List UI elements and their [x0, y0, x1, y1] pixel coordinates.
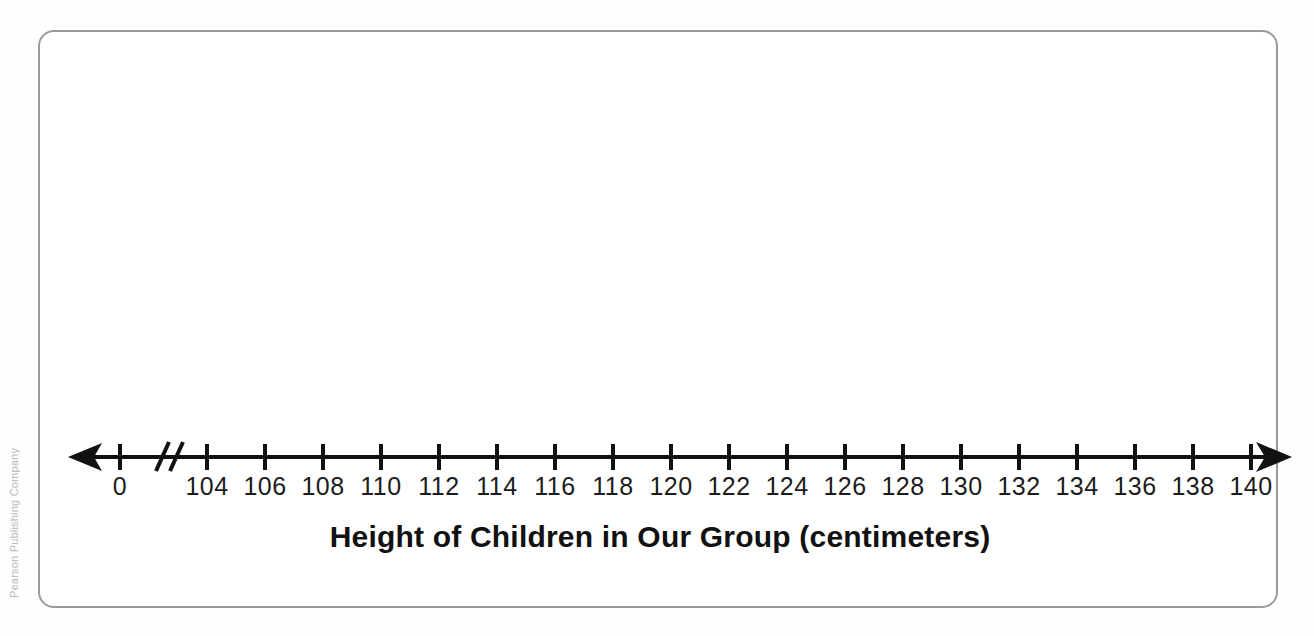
- tick-label-130: 130: [939, 472, 982, 501]
- tick-label-112: 112: [418, 472, 459, 501]
- tick-label-124: 124: [765, 472, 808, 501]
- tick-label-row: 0 104 106 108 110 112 114 116 118 120 12…: [60, 472, 1270, 512]
- tick-label-104: 104: [185, 472, 228, 501]
- number-line-figure: 0 104 106 108 110 112 114 116 118 120 12…: [40, 32, 1280, 610]
- tick-label-118: 118: [592, 472, 633, 501]
- tick-label-108: 108: [301, 472, 344, 501]
- tick-label-110: 110: [360, 472, 401, 501]
- tick-label-114: 114: [476, 472, 517, 501]
- tick-label-128: 128: [881, 472, 924, 501]
- chart-title: Height of Children in Our Group (centime…: [40, 520, 1280, 554]
- tick-label-140: 140: [1229, 472, 1272, 501]
- worksheet-frame: 0 104 106 108 110 112 114 116 118 120 12…: [38, 30, 1278, 608]
- tick-label-116: 116: [534, 472, 575, 501]
- tick-label-132: 132: [997, 472, 1040, 501]
- tick-label-122: 122: [707, 472, 750, 501]
- tick-label-138: 138: [1171, 472, 1214, 501]
- tick-label-0: 0: [113, 472, 127, 501]
- tick-label-120: 120: [649, 472, 692, 501]
- tick-label-106: 106: [243, 472, 286, 501]
- tick-label-136: 136: [1113, 472, 1156, 501]
- tick-label-134: 134: [1055, 472, 1098, 501]
- tick-label-126: 126: [823, 472, 866, 501]
- publisher-credit: Pearson Publishing Company: [8, 398, 20, 598]
